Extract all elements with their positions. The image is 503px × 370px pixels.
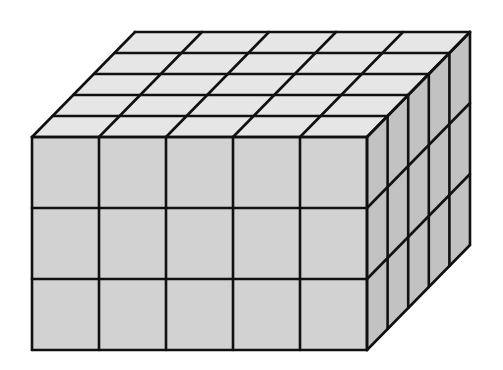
cube-prism-diagram bbox=[0, 0, 503, 370]
diagram-canvas: Rectangular prism built from unit cubes bbox=[0, 0, 503, 370]
front-face bbox=[32, 137, 367, 350]
